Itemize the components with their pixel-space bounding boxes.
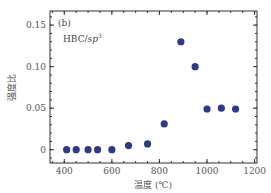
data-point: [218, 105, 225, 112]
data-point: [73, 146, 80, 153]
y-tick-label: 0.05: [26, 103, 46, 113]
data-point: [161, 120, 168, 127]
y-tick-label: 0: [40, 145, 46, 155]
data-point: [63, 146, 70, 153]
data-point: [125, 142, 132, 149]
y-tick-label: 0.15: [26, 20, 46, 30]
data-point: [144, 140, 151, 147]
data-point: [232, 105, 239, 112]
data-point: [84, 146, 91, 153]
data-point: [203, 105, 210, 112]
data-point: [177, 38, 184, 45]
scatter-chart: 00.050.100.15 40060080010001200 (b) HBC/…: [0, 0, 271, 193]
x-tick-label: 1000: [196, 166, 219, 176]
y-axis-ticks: 00.050.100.15: [26, 20, 257, 155]
x-tick-label: 800: [151, 166, 168, 176]
x-axis-label: 温度 (℃): [134, 179, 172, 190]
y-axis-label: 强度比: [6, 74, 17, 101]
x-tick-label: 400: [56, 166, 73, 176]
x-tick-label: 600: [103, 166, 120, 176]
panel-label: (b): [58, 18, 71, 28]
data-point: [192, 63, 199, 70]
series-annotation: HBC/sp3: [63, 32, 102, 44]
data-point: [108, 146, 115, 153]
data-points: [63, 38, 239, 153]
y-tick-label: 0.10: [26, 62, 46, 72]
data-point: [94, 146, 101, 153]
x-tick-label: 1200: [243, 166, 266, 176]
